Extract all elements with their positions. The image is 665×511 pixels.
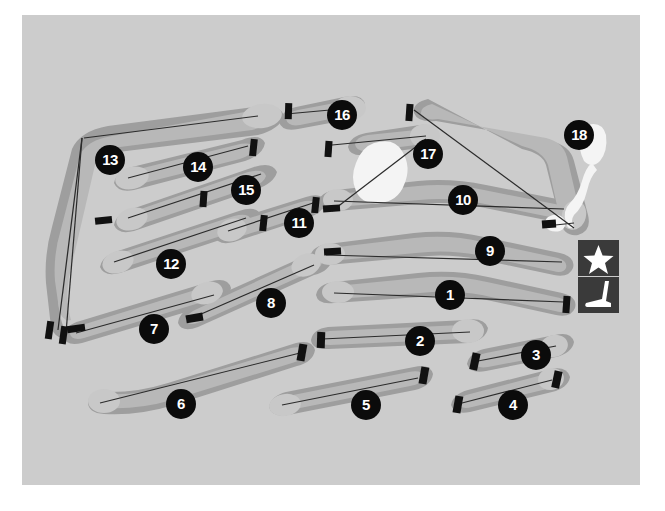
tee-18-green-marker (542, 220, 557, 229)
hole-marker-18[interactable]: 18 (564, 120, 594, 150)
hole-marker-4[interactable]: 4 (498, 390, 528, 420)
tee-2 (317, 332, 326, 348)
hole-marker-1[interactable]: 1 (435, 280, 465, 310)
tee-15 (199, 191, 207, 207)
green-1 (322, 281, 354, 303)
tee-1 (562, 296, 570, 313)
hole-marker-13[interactable]: 13 (95, 145, 125, 175)
hole-marker-17[interactable]: 17 (413, 139, 443, 169)
star-icon (578, 240, 619, 276)
hole-marker-8[interactable]: 8 (256, 288, 286, 318)
hole-marker-15[interactable]: 15 (231, 175, 261, 205)
hole-marker-3[interactable]: 3 (521, 340, 551, 370)
hole-marker-7[interactable]: 7 (139, 314, 169, 344)
hole-marker-10[interactable]: 10 (448, 185, 478, 215)
green-2 (452, 319, 484, 343)
tee-16 (285, 103, 293, 119)
hole-marker-14[interactable]: 14 (183, 152, 213, 182)
golf-course-map-screenshot: 1 2 3 4 5 6 7 8 9 10 11 12 13 14 15 16 1… (0, 0, 665, 511)
legend-practice-box[interactable] (578, 277, 619, 313)
hole-marker-12[interactable]: 12 (156, 249, 186, 279)
hole-marker-16[interactable]: 16 (327, 100, 357, 130)
golf-club-icon (578, 277, 619, 313)
legend-clubhouse-box[interactable] (578, 240, 619, 276)
hole-marker-6[interactable]: 6 (166, 389, 196, 419)
hole-marker-11[interactable]: 11 (284, 208, 314, 238)
tee-17-alt (323, 204, 340, 212)
hole-marker-2[interactable]: 2 (405, 326, 435, 356)
tee-13a (45, 321, 54, 340)
hole-marker-5[interactable]: 5 (351, 390, 381, 420)
tee-9 (324, 248, 341, 256)
tee-17 (324, 141, 332, 157)
course-graphics (22, 15, 640, 485)
green-6 (88, 389, 120, 413)
tee-12 (95, 216, 113, 225)
hole-marker-9[interactable]: 9 (475, 236, 505, 266)
course-map-canvas[interactable]: 1 2 3 4 5 6 7 8 9 10 11 12 13 14 15 16 1… (22, 15, 640, 485)
tee-18 (405, 104, 413, 121)
